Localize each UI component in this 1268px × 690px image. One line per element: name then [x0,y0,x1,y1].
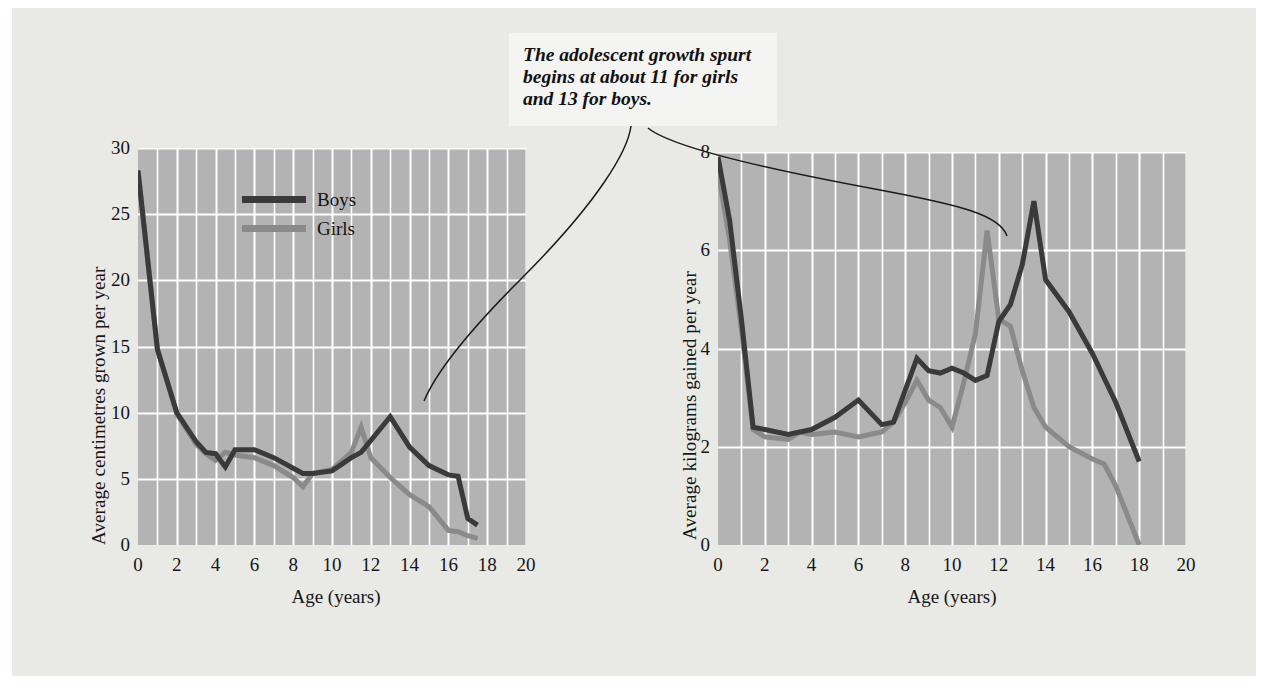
callout-line-3: and 13 for boys. [523,88,764,110]
plot-area-right [718,152,1186,545]
y-tick-right-8: 8 [672,141,710,163]
x-tick-right-14: 14 [1026,554,1066,576]
x-axis-title-right: Age (years) [852,586,1052,608]
y-tick-right-2: 2 [672,436,710,458]
y-axis-title-right: Average kilograms gained per year [679,271,701,540]
callout-line-1: The adolescent growth spurt [523,44,764,66]
x-tick-right-6: 6 [838,554,878,576]
x-tick-right-4: 4 [792,554,832,576]
x-tick-right-18: 18 [1119,554,1159,576]
y-tick-right-6: 6 [672,239,710,261]
plot-svg-right [718,152,1186,545]
x-tick-right-0: 0 [698,554,738,576]
y-tick-right-0: 0 [672,534,710,556]
x-tick-right-8: 8 [885,554,925,576]
figure-page: Average centimetres grown per year 05101… [0,0,1268,690]
x-tick-right-2: 2 [745,554,785,576]
x-tick-right-10: 10 [932,554,972,576]
x-tick-right-12: 12 [979,554,1019,576]
y-tick-right-4: 4 [672,338,710,360]
series-line-boys [718,157,1139,462]
x-tick-right-16: 16 [1072,554,1112,576]
callout-line-2: begins at about 11 for girls [523,66,764,88]
annotation-callout: The adolescent growth spurt begins at ab… [509,33,777,126]
x-tick-right-20: 20 [1166,554,1206,576]
series-line-girls [718,172,1139,545]
